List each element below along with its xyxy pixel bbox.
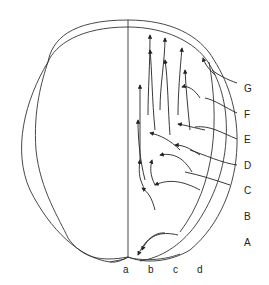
row-label-f: F bbox=[244, 109, 250, 120]
row-label-d: D bbox=[244, 160, 251, 171]
row-label-e: E bbox=[244, 134, 251, 145]
diagram-canvas: G F E D C B A a b c d bbox=[0, 0, 269, 285]
col-label-a: a bbox=[123, 264, 129, 275]
col-label-d: d bbox=[197, 264, 203, 275]
row-label-c: C bbox=[244, 185, 251, 196]
row-label-g: G bbox=[244, 83, 252, 94]
row-label-a: A bbox=[244, 237, 251, 248]
cell-trajectories bbox=[138, 35, 215, 255]
row-labels: G F E D C B A bbox=[244, 83, 252, 248]
embryo-outline bbox=[22, 20, 238, 262]
row-label-b: B bbox=[244, 211, 251, 222]
col-label-b: b bbox=[148, 264, 154, 275]
column-labels: a b c d bbox=[123, 264, 203, 275]
col-label-c: c bbox=[173, 264, 178, 275]
